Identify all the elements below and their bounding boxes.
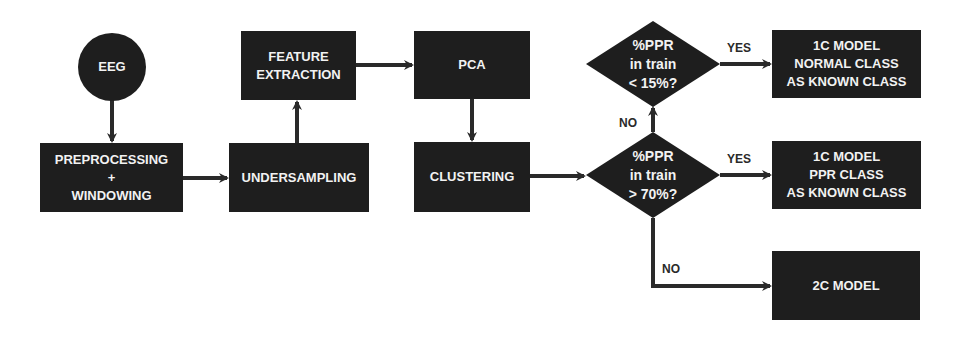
clustering-node: CLUSTERING	[414, 142, 530, 212]
model-normal-node: 1C MODEL NORMAL CLASS AS KNOWN CLASS	[772, 30, 921, 98]
model-normal-label: 1C MODEL NORMAL CLASS AS KNOWN CLASS	[787, 37, 907, 91]
preprocessing-node: PREPROCESSING + WINDOWING	[40, 143, 183, 212]
yes-label-high: YES	[727, 152, 751, 166]
feature-extraction-node: FEATURE EXTRACTION	[241, 31, 356, 100]
undersampling-node: UNDERSAMPLING	[229, 143, 369, 212]
decision-low-label: %PPR in train < 15%?	[598, 21, 708, 107]
yes-label-low: YES	[727, 41, 751, 55]
pca-label: PCA	[458, 56, 485, 74]
pca-node: PCA	[414, 31, 530, 99]
clustering-label: CLUSTERING	[430, 168, 515, 186]
preprocessing-label: PREPROCESSING + WINDOWING	[55, 151, 168, 205]
no-label-down: NO	[662, 262, 680, 276]
model-ppr-node: 1C MODEL PPR CLASS AS KNOWN CLASS	[772, 141, 921, 209]
eeg-node: EEG	[78, 33, 146, 101]
decision-high-label: %PPR in train > 70%?	[598, 132, 708, 218]
model-ppr-label: 1C MODEL PPR CLASS AS KNOWN CLASS	[787, 148, 907, 202]
undersampling-label: UNDERSAMPLING	[242, 169, 357, 187]
model-2c-label: 2C MODEL	[812, 277, 879, 295]
eeg-label: EEG	[98, 58, 125, 76]
no-label-up: NO	[619, 116, 637, 130]
model-2c-node: 2C MODEL	[772, 251, 920, 320]
feature-extraction-label: FEATURE EXTRACTION	[256, 48, 341, 84]
